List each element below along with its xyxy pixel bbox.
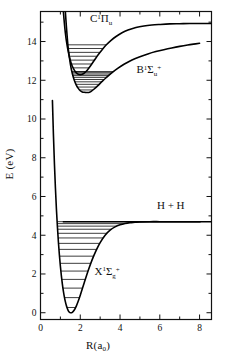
- x-tick-label: 4: [118, 323, 123, 333]
- y-tick-label: 0: [32, 308, 37, 318]
- x-axis-label: R(a0): [86, 339, 110, 353]
- x-tick-label: 8: [197, 323, 202, 333]
- y-tick-label: 2: [32, 269, 37, 279]
- x-tick-label: 6: [157, 323, 162, 333]
- label-HH: H + H: [157, 199, 185, 211]
- figure-background: [0, 0, 226, 359]
- label-HH-text: H + H: [157, 199, 185, 211]
- x-tick-label: 0: [38, 323, 43, 333]
- x-axis-label-close: ): [106, 339, 110, 351]
- y-tick-label: 4: [32, 231, 37, 241]
- y-axis-label: E (eV): [3, 134, 15, 194]
- y-tick-label: 8: [32, 153, 37, 163]
- x-tick-label: 2: [78, 323, 83, 333]
- y-tick-label: 12: [27, 76, 37, 86]
- y-tick-label: 14: [27, 37, 37, 47]
- y-tick-label: 10: [27, 114, 37, 124]
- x-axis-label-main: R(a: [86, 339, 102, 351]
- y-tick-label: 6: [32, 192, 37, 202]
- potential-energy-curve-figure: 0246802468101214 C1ΠuB1Σu+X1Σg+H + H: [0, 0, 226, 359]
